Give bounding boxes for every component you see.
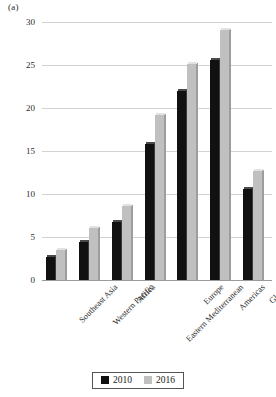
bar-group — [141, 22, 174, 280]
plot-area: 051015202530 — [42, 22, 272, 280]
bar-top-cap — [178, 89, 187, 91]
bar-2010 — [112, 220, 121, 280]
bar-group — [108, 22, 141, 280]
y-axis-tick-label: 30 — [26, 17, 35, 27]
bar-body — [89, 228, 98, 280]
bar-2010 — [243, 187, 252, 280]
bar-body — [253, 171, 262, 280]
bar-2016 — [56, 248, 65, 280]
bar-top-cap — [244, 187, 253, 189]
bar-side-face — [65, 249, 67, 280]
panel-label: (a) — [8, 2, 19, 12]
x-axis-label: Africa — [134, 282, 156, 304]
y-axis-tick-label: 25 — [26, 60, 35, 70]
bar-group — [42, 22, 75, 280]
bar-2010 — [145, 142, 154, 280]
black-square-swatch — [101, 376, 109, 384]
bar-2016 — [220, 28, 229, 280]
bar-group — [239, 22, 272, 280]
legend-label: 2016 — [156, 375, 175, 385]
bar-group — [75, 22, 108, 280]
bar-2010 — [46, 255, 55, 280]
chart-legend: 20102016 — [92, 372, 184, 389]
bar-2016 — [89, 226, 98, 280]
y-axis-tick-label: 0 — [31, 275, 36, 285]
bar-top-cap — [211, 58, 220, 60]
bar-top-cap — [188, 62, 197, 64]
bar-side-face — [131, 205, 133, 280]
bar-side-face — [98, 227, 100, 280]
x-axis-label: Global — [266, 282, 276, 305]
bar-body — [56, 250, 65, 280]
bar-2016 — [155, 113, 164, 280]
bar-group — [173, 22, 206, 280]
bar-2010 — [210, 58, 219, 280]
y-axis-tick-label: 15 — [26, 146, 35, 156]
bar-body — [155, 115, 164, 280]
bar-top-cap — [156, 113, 165, 115]
y-axis-tick-label: 10 — [26, 189, 35, 199]
bar-top-cap — [57, 248, 66, 250]
bar-top-cap — [90, 226, 99, 228]
bar-side-face — [229, 29, 231, 280]
bar-top-cap — [80, 240, 89, 242]
bar-top-cap — [47, 255, 56, 257]
bar-top-cap — [123, 204, 132, 206]
bar-body — [145, 144, 154, 280]
bar-body — [177, 91, 186, 280]
legend-label: 2010 — [113, 375, 132, 385]
bar-side-face — [164, 114, 166, 280]
bar-body — [46, 257, 55, 280]
bar-top-cap — [254, 169, 263, 171]
bar-top-cap — [146, 142, 155, 144]
bar-2016 — [122, 204, 131, 280]
x-axis-category-labels: Southeast AsiaWestern PacificAfricaEaste… — [42, 282, 272, 372]
y-axis-tick-label: 20 — [26, 103, 35, 113]
bar-group — [206, 22, 239, 280]
bar-side-face — [262, 170, 264, 280]
bar-2010 — [79, 240, 88, 280]
bar-2010 — [177, 89, 186, 280]
bar-series-container — [42, 22, 272, 280]
bar-body — [210, 60, 219, 280]
bar-top-cap — [113, 220, 122, 222]
bar-body — [122, 206, 131, 280]
bar-side-face — [196, 63, 198, 280]
bar-body — [220, 30, 229, 280]
legend-item: 2010 — [101, 375, 132, 385]
bar-body — [187, 64, 196, 280]
bar-2016 — [253, 169, 262, 280]
bar-body — [243, 189, 252, 280]
legend-item: 2016 — [144, 375, 175, 385]
bar-2016 — [187, 62, 196, 280]
bar-body — [112, 222, 121, 280]
bar-top-cap — [221, 28, 230, 30]
bar-body — [79, 242, 88, 280]
y-axis-tick-label: 5 — [31, 232, 36, 242]
gray-square-swatch — [144, 376, 152, 384]
